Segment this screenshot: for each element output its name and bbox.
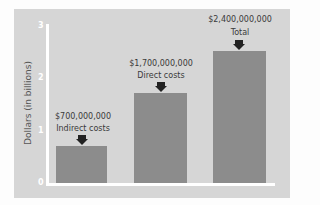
bar-label-indirect: Indirect costs <box>50 124 116 134</box>
bar-direct-costs <box>134 93 187 183</box>
arrow-down-icon <box>76 139 88 145</box>
bar-amount-direct: $1,700,000,000 <box>120 59 202 69</box>
bar-total <box>213 51 266 183</box>
y-tick-1: 1 <box>38 126 44 135</box>
y-axis <box>46 24 49 186</box>
bar-label-total: Total <box>199 28 281 38</box>
y-axis-label: Dollars (in billions) <box>23 65 33 145</box>
x-axis <box>46 183 275 186</box>
arrow-down-icon <box>155 86 167 92</box>
y-tick-2: 2 <box>38 73 44 82</box>
arrow-down-icon <box>233 44 245 50</box>
y-tick-0: 0 <box>38 178 44 187</box>
bar-amount-indirect: $700,000,000 <box>50 112 116 122</box>
bar-amount-total: $2,400,000,000 <box>199 15 281 25</box>
bar-indirect-costs <box>56 146 107 183</box>
bar-label-direct: Direct costs <box>120 71 202 81</box>
y-tick-3: 3 <box>38 21 44 30</box>
